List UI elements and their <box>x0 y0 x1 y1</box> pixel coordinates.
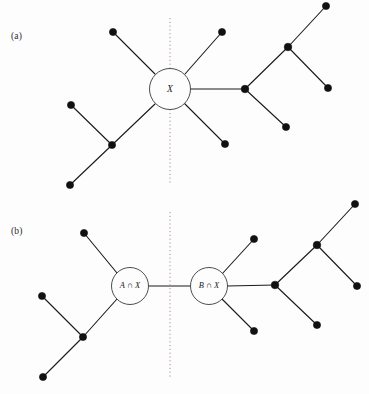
edge-a-hub-to-lower-left <box>83 299 117 337</box>
hub-b-intersect-x-label: B ∩ X <box>199 281 220 290</box>
panel-a: X <box>66 2 331 188</box>
hub-x-label: X <box>166 84 174 94</box>
edge-hub-to-lower-right <box>184 103 225 144</box>
node-leaf-far-lower-right <box>313 321 320 328</box>
hub-a-intersect-x-label: A ∩ X <box>119 281 141 290</box>
edge-right-junction-to-far-upper <box>317 204 355 245</box>
edge-b-hub-to-right-hub <box>227 285 275 286</box>
figure-root: (a) (b) XA ∩ XB ∩ X <box>0 0 369 394</box>
node-leaf-upper-right <box>218 28 225 35</box>
node-leaf-far-mid-right <box>353 282 360 289</box>
edge-right-junction-to-far-mid <box>288 47 328 88</box>
edge-left-junction-to-leaf-up <box>71 105 112 145</box>
node-hub-right <box>241 85 249 93</box>
node-branch-junction-left <box>108 141 115 148</box>
tree-diagram-canvas: XA ∩ XB ∩ X <box>0 0 369 394</box>
edge-right-hub-to-leaf-lower <box>245 89 286 127</box>
edge-right-hub-to-junction <box>275 245 317 285</box>
node-branch-junction-right <box>284 43 292 51</box>
node-leaf-b-lower-right <box>250 327 257 334</box>
node-leaf-b-upper-right <box>250 235 257 242</box>
node-leaf-left-lower <box>39 373 46 380</box>
edge-hub-to-upper-left <box>113 32 155 74</box>
edge-left-junction-to-leaf-down <box>70 145 112 185</box>
node-leaf-far-upper-right <box>351 200 358 207</box>
panel-b: A ∩ XB ∩ X <box>38 200 360 380</box>
node-leaf-lower-right <box>221 140 228 147</box>
edge-right-junction-to-far-mid <box>317 245 357 286</box>
edge-hub-to-upper-right <box>185 32 222 74</box>
node-leaf-upper-left <box>80 229 87 236</box>
node-leaf-upper-left <box>109 28 116 35</box>
node-leaf-left-lower <box>66 181 73 188</box>
node-branch-junction-left <box>79 333 86 340</box>
node-leaf-far-upper-right <box>322 2 329 9</box>
edge-right-hub-to-junction <box>245 47 288 89</box>
edge-right-junction-to-far-upper <box>288 6 326 47</box>
edge-right-hub-to-leaf-lower <box>275 285 317 325</box>
edge-left-junction-to-leaf-up <box>42 296 83 337</box>
node-leaf-left-upper <box>67 101 74 108</box>
node-hub-right <box>271 281 279 289</box>
node-leaf-left-upper <box>38 292 45 299</box>
edge-hub-to-lower-left <box>112 104 155 145</box>
edge-b-hub-to-lower-right <box>222 299 254 331</box>
node-branch-junction-right <box>313 241 321 249</box>
edge-a-hub-to-upper-left <box>84 233 117 273</box>
edge-left-junction-to-leaf-down <box>43 337 83 377</box>
node-leaf-far-mid-right <box>324 84 331 91</box>
node-leaf-far-lower-right <box>282 123 289 130</box>
edge-b-hub-to-upper-right <box>222 239 254 274</box>
